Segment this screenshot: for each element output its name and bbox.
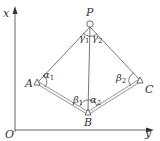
angle-gamma1-label: γ1 bbox=[79, 33, 89, 45]
angle-alpha1-label: α1 bbox=[43, 70, 54, 82]
axes bbox=[15, 10, 150, 132]
diagram-svg bbox=[0, 0, 160, 141]
point-C-label: C bbox=[145, 84, 153, 95]
y-axis-label: y bbox=[145, 128, 151, 139]
point-P-label: P bbox=[86, 7, 93, 18]
angle-beta2-label: β2 bbox=[116, 73, 126, 85]
point-A-label: A bbox=[25, 78, 33, 89]
station-P-icon bbox=[87, 21, 93, 27]
angle-beta1-label: β1 bbox=[73, 95, 83, 107]
angle-alpha2-label: α2 bbox=[90, 95, 101, 107]
diagram-canvas: x y O P A B C γ1 γ2 α1 β1 α2 β2 bbox=[0, 0, 160, 141]
angle-gamma2-label: γ2 bbox=[92, 33, 102, 45]
x-axis-label: x bbox=[3, 8, 9, 19]
origin-label: O bbox=[5, 129, 14, 140]
point-B-label: B bbox=[84, 117, 92, 128]
x-axis-arrow-icon bbox=[13, 6, 18, 14]
